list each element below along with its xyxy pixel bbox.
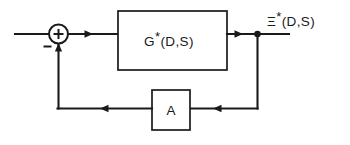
arrowhead-icon xyxy=(213,105,222,112)
forward-block-label-args: (D,S) xyxy=(160,34,194,49)
output-signal-label-base: Ξ xyxy=(267,14,276,29)
feedback-block-label: A xyxy=(167,103,176,118)
sum-to-forward-block-wire xyxy=(68,30,118,37)
arrowhead-icon xyxy=(55,43,62,52)
feedback-left-up-to-sum-wire xyxy=(55,43,62,109)
arrowhead-icon xyxy=(85,30,94,37)
summing-junction xyxy=(44,25,69,47)
forward-block-label-base: G xyxy=(144,34,155,49)
block-diagram-canvas: G*(D,S) A Ξ*(D,S) xyxy=(0,0,350,145)
feedback-right-to-A-wire xyxy=(190,105,258,112)
A-to-feedback-left-wire xyxy=(58,105,153,112)
output-signal-label-args: (D,S) xyxy=(282,14,316,29)
forward-block-to-output-node-wire xyxy=(227,30,258,37)
arrowhead-icon xyxy=(100,105,109,112)
arrowhead-icon xyxy=(235,30,244,37)
output-signal-label: Ξ*(D,S) xyxy=(267,9,315,30)
block-diagram-svg: G*(D,S) A Ξ*(D,S) xyxy=(0,0,350,145)
